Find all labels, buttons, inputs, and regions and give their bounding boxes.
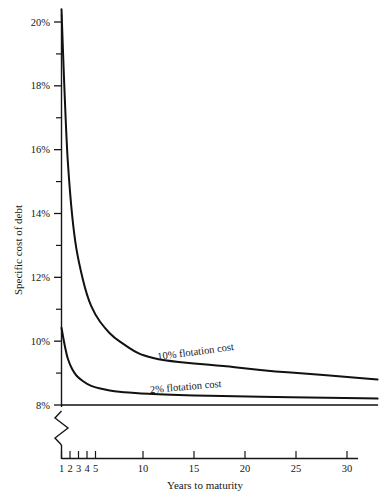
y-tick-label: 14%	[31, 208, 51, 219]
chart-figure: 8%10%12%14%16%18%20% 123451015202530 10%…	[0, 0, 382, 502]
x-tick-label: 15	[189, 463, 200, 474]
y-tick-label: 18%	[31, 80, 51, 91]
x-tick-label: 2	[67, 463, 72, 474]
y-tick-label: 20%	[31, 17, 51, 28]
y-tick-label: 10%	[31, 336, 51, 347]
x-tick-label: 1	[59, 463, 64, 474]
y-tick-label: 8%	[36, 400, 50, 411]
x-axis-title: Years to maturity	[167, 479, 243, 491]
x-tick-label: 3	[76, 463, 81, 474]
x-tick-label: 25	[291, 463, 302, 474]
x-tick-label: 4	[84, 463, 90, 474]
x-tick-label: 20	[240, 463, 251, 474]
x-tick-label: 30	[342, 463, 353, 474]
y-tick-label: 12%	[31, 272, 51, 283]
chart-svg: 8%10%12%14%16%18%20% 123451015202530 10%…	[0, 0, 382, 502]
chart-background	[0, 0, 382, 502]
y-axis-title: Specific cost of debt	[12, 205, 24, 295]
x-tick-label: 10	[138, 463, 149, 474]
x-tick-label: 5	[93, 463, 98, 474]
y-tick-label: 16%	[31, 144, 51, 155]
